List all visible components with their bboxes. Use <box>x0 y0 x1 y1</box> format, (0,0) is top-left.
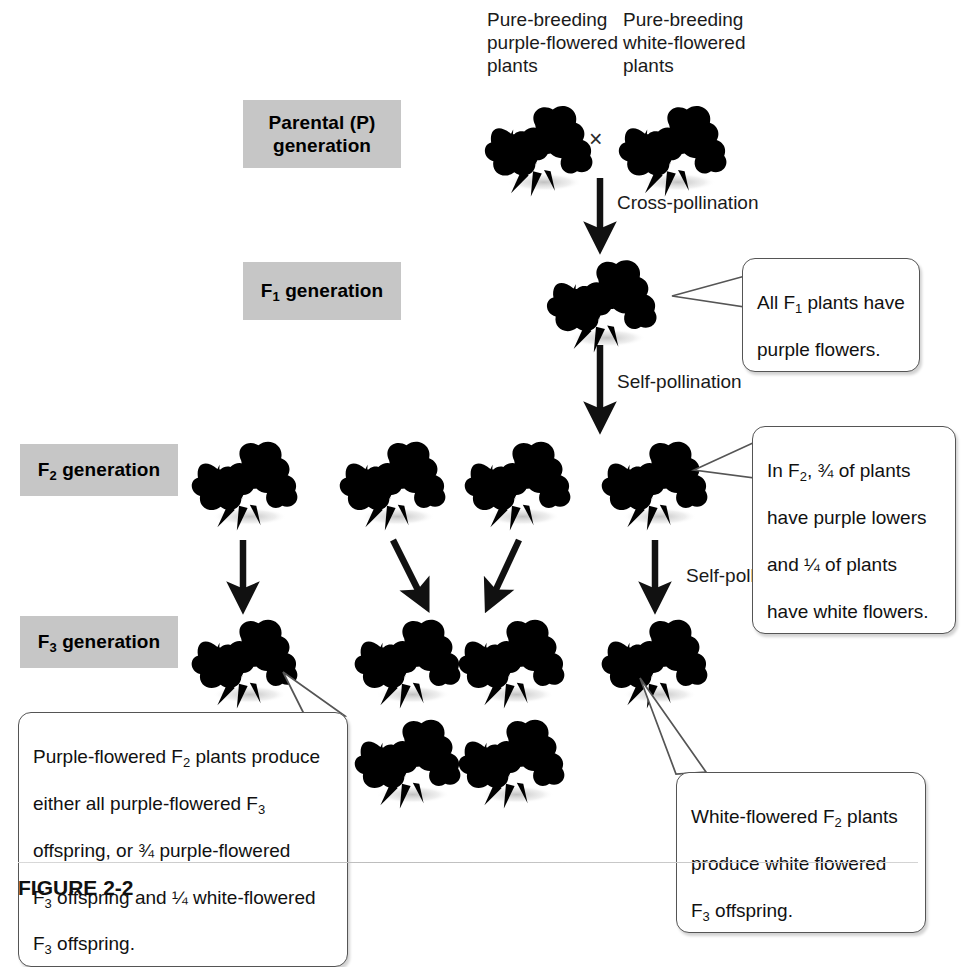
flower-f3-purple-2 <box>355 620 461 709</box>
callout-f2-line3: and ¼ of plants <box>767 554 897 575</box>
flower-f1-purple <box>547 260 657 352</box>
process-label-self-pollination-f1: Self-pollination <box>617 371 742 393</box>
callout-f3-purple-line1: Purple-flowered F2 plants produce <box>33 746 320 767</box>
callout-f2-line2: have purple lowers <box>767 507 926 528</box>
callout-f3-white: White-flowered F2 plants produce white f… <box>676 772 926 933</box>
callout-f3-white-line1: White-flowered F2 plants <box>691 806 898 827</box>
arrow-f2-3-to-f3 <box>492 540 519 598</box>
generation-label-f1: F1 generation <box>243 262 401 320</box>
callout-f3-purple-line5: F3 offspring. <box>33 933 135 954</box>
flower-f3-white-2 <box>459 720 565 809</box>
callout-tail-f3-white <box>640 678 706 774</box>
flower-f3-purple-4 <box>355 720 461 809</box>
flower-f2-white-1 <box>602 442 708 531</box>
callout-f2: In F2, ¾ of plants have purple lowers an… <box>752 426 956 634</box>
callout-f3-purple: Purple-flowered F2 plants produce either… <box>18 712 348 967</box>
callout-f1-line2: purple flowers. <box>757 339 881 360</box>
flower-f3-white-1 <box>602 620 708 709</box>
flower-f3-purple-1 <box>192 620 298 709</box>
generation-label-f1-text: F1 generation <box>261 279 384 302</box>
callout-f2-line4: have white flowers. <box>767 601 929 622</box>
flower-f2-purple-3 <box>465 442 571 531</box>
generation-label-parental: Parental (P)generation <box>243 100 401 168</box>
flower-f3-purple-3 <box>459 620 565 709</box>
flower-parental-white <box>619 106 727 196</box>
parent-label-purple: Pure-breeding purple-flowered plants <box>487 8 632 78</box>
caption-rule <box>18 862 918 863</box>
generation-label-parental-text: Parental (P)generation <box>269 111 376 157</box>
generation-label-f3: F3 generation <box>20 616 178 668</box>
callout-f3-purple-line3: offspring, or ¾ purple-flowered <box>33 840 290 861</box>
callout-f2-line1: In F2, ¾ of plants <box>767 460 910 481</box>
arrow-f2-2-to-f3 <box>393 540 422 598</box>
parent-label-white: Pure-breeding white-flowered plants <box>623 8 773 78</box>
generation-label-f2-text: F2 generation <box>38 458 161 481</box>
callout-tail-f1 <box>672 276 745 307</box>
callout-f1: All F1 plants have purple flowers. <box>742 258 920 372</box>
callout-f3-purple-line2: either all purple-flowered F3 <box>33 793 265 814</box>
flower-parental-purple <box>485 106 593 196</box>
callout-f3-white-line3: F3 offspring. <box>691 900 793 921</box>
callout-f3-white-line2: produce white flowered <box>691 853 886 874</box>
callout-f1-line1: All F1 plants have <box>757 292 905 313</box>
generation-label-f2: F2 generation <box>20 444 178 496</box>
cross-symbol: × <box>589 126 602 153</box>
process-label-cross-pollination: Cross-pollination <box>617 192 759 214</box>
generation-label-f3-text: F3 generation <box>38 630 161 653</box>
figure-caption: FIGURE 2-2 <box>18 876 134 900</box>
callout-tail-f2 <box>694 442 755 478</box>
flower-f2-purple-1 <box>192 442 298 531</box>
flower-f2-purple-2 <box>340 442 446 531</box>
